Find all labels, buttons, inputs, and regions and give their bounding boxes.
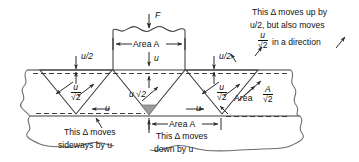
u-half-right-label: u/2: [219, 51, 231, 61]
a-over-sqrt2-right: A √2: [263, 85, 273, 104]
u-over-sqrt2-note-denominator: √2: [258, 41, 268, 51]
area-a-top-label: Area A: [133, 39, 159, 49]
u-center-top-label: u: [154, 53, 159, 63]
u-left-horizontal-label: u: [105, 103, 110, 113]
u-over-sqrt2-right: u √2: [217, 83, 227, 102]
area-a-bottom-label: Area A: [169, 119, 195, 129]
u-sqrt2-center-label: u √2: [129, 89, 146, 99]
note-center-line1: This Δ moves: [156, 131, 208, 142]
shear-deformation-diagram: F Area A Area A u/2 u/2 u u u u √2 u √2 …: [0, 0, 359, 162]
note-center-line2: down by u: [154, 144, 193, 155]
area-right-label-prefix: Area: [234, 93, 253, 103]
u-over-sqrt2-left-denominator: √2: [71, 93, 81, 103]
u-over-sqrt2-note: u √2: [258, 31, 268, 50]
u-over-sqrt2-left: u √2: [71, 83, 81, 102]
force-label: F: [155, 10, 160, 20]
note-right-line1: This Δ moves up by: [252, 7, 327, 18]
u-over-sqrt2-right-denominator: √2: [217, 93, 227, 103]
note-left-line2: sideways by u: [58, 140, 112, 151]
note-right-line3-tail: in a direction: [272, 37, 321, 48]
u-half-left-label: u/2: [81, 51, 93, 61]
a-over-sqrt2-denominator: √2: [263, 95, 273, 105]
u-right-horizontal-label: u: [196, 103, 201, 113]
note-left-line1: This Δ moves: [64, 127, 116, 138]
